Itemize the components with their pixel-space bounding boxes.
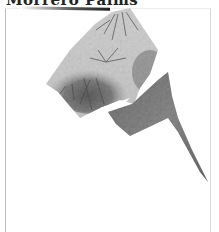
palm-tree-fragment-image	[0, 0, 219, 232]
